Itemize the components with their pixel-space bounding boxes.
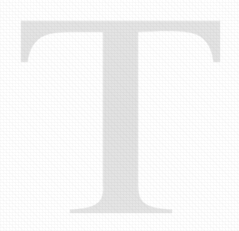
letter-t-character: T	[0, 0, 239, 231]
image-canvas: T	[0, 0, 239, 231]
